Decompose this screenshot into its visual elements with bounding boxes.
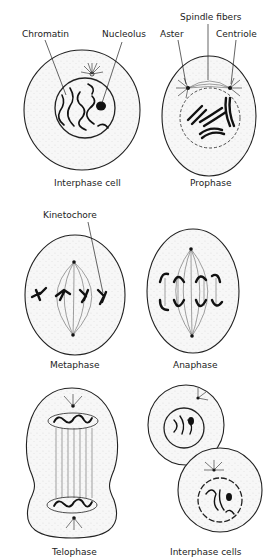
- panel-interphase: Chromatin Nucleolus Interphase cell: [22, 29, 146, 188]
- caption-anaphase: Anaphase: [173, 360, 218, 370]
- mitosis-diagram: Chromatin Nucleolus Interphase cell: [0, 0, 271, 559]
- caption-interphase: Interphase cell: [54, 178, 121, 188]
- label-centriole: Centriole: [216, 29, 257, 39]
- panel-prophase: Spindle fibers Aster Centriole Prophase: [160, 12, 257, 188]
- label-aster: Aster: [160, 29, 184, 39]
- caption-metaphase: Metaphase: [50, 360, 100, 370]
- centriole-top: [72, 260, 76, 264]
- caption-prophase: Prophase: [190, 178, 232, 188]
- label-kinetochore: Kinetochore: [43, 210, 97, 220]
- centriole-top: [189, 247, 193, 251]
- nucleolus: [96, 102, 106, 111]
- caption-interphase-cells: Interphase cells: [170, 547, 242, 557]
- panel-anaphase: Anaphase: [147, 229, 239, 370]
- cell-membrane: [24, 50, 140, 170]
- caption-telophase: Telophase: [51, 547, 97, 557]
- nucleolus: [188, 417, 194, 425]
- label-nucleolus: Nucleolus: [102, 29, 146, 39]
- centriole-bottom: [71, 333, 75, 337]
- centriole-bottom: [190, 334, 194, 338]
- label-spindle-fibers: Spindle fibers: [180, 12, 242, 22]
- cell-membrane: [26, 388, 117, 538]
- panel-interphase-cells: Interphase cells: [148, 385, 262, 557]
- panel-metaphase: Kinetochore Metaphase: [25, 210, 125, 370]
- panel-telophase: Telophase: [26, 388, 117, 557]
- label-chromatin: Chromatin: [22, 29, 69, 39]
- nucleolus: [226, 493, 232, 501]
